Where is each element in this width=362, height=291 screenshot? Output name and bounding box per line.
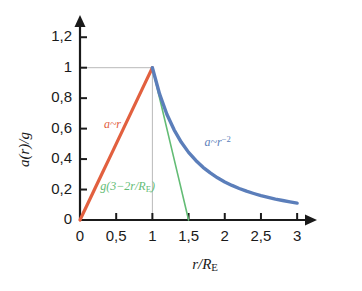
series-line-orange	[80, 68, 152, 220]
x-axis-arrow	[305, 215, 317, 226]
annotation-linear-law: a~r	[104, 117, 121, 132]
y-tick-label: 0	[22, 210, 72, 227]
y-tick-label: 0,8	[22, 88, 72, 105]
y-tick-label: 1,2	[22, 27, 72, 44]
annotation-green-formula: g(3−2r/RE)	[100, 179, 155, 194]
x-tick-label: 3	[275, 227, 319, 244]
gravity-profile-chart: 00,20,40,60,811,2 00,511,522,53 a(r)/g r…	[0, 0, 362, 291]
y-tick-label: 0,2	[22, 180, 72, 197]
annotation-inverse-square-law: a~r−2	[204, 134, 230, 150]
y-axis-title-text: a(r)/g	[16, 132, 32, 167]
y-axis-title: a(r)/g	[16, 132, 33, 167]
x-axis-title-text: r/RE	[192, 256, 218, 272]
y-tick-label: 1	[22, 58, 72, 75]
y-axis-arrow	[75, 15, 86, 27]
x-axis-title: r/RE	[192, 256, 218, 273]
